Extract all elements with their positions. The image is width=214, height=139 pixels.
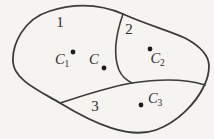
point-label-c2-sub: 2	[160, 58, 165, 68]
point-label-c1-main: C	[55, 51, 65, 67]
point-label-c3: C 3	[148, 89, 163, 108]
point-label-c3-main: C	[148, 90, 158, 106]
point-label-c3-sub: 3	[158, 98, 163, 108]
diagram-canvas: 1 2 3 C 1 C C 2 C 3	[0, 0, 214, 139]
point-dot-c1	[71, 50, 76, 55]
region-3-label: 3	[91, 98, 99, 114]
point-label-c: C	[89, 51, 99, 67]
region-2-label: 2	[125, 21, 133, 37]
region-diagram-figure: 1 2 3 C 1 C C 2 C 3	[0, 0, 214, 139]
point-label-c1-sub: 1	[65, 59, 70, 69]
region-1-label: 1	[56, 14, 64, 30]
point-label-c-main: C	[89, 51, 99, 67]
point-label-c2: C 2	[151, 49, 166, 68]
point-label-c2-main: C	[151, 50, 161, 66]
point-dot-c	[102, 66, 107, 71]
point-label-c1: C 1	[55, 50, 70, 69]
point-dot-c3	[139, 103, 144, 108]
